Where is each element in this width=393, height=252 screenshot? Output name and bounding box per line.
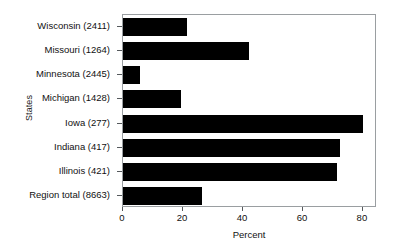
y-axis-tick-labels: Wisconsin (2411)Missouri (1264)Minnesota… (0, 14, 118, 207)
bar (123, 187, 202, 205)
plot-area (122, 14, 376, 207)
x-axis-tick-mark (122, 207, 123, 211)
x-axis-ticks: 020406080 (122, 207, 377, 229)
x-axis-title: Percent (122, 229, 376, 240)
x-axis-tick-label: 80 (347, 212, 377, 223)
y-axis-tick-label: Region total (8663) (29, 189, 110, 201)
y-axis-tick-label: Wisconsin (2411) (37, 20, 110, 32)
y-axis-tick-label: Missouri (1264) (45, 44, 110, 56)
bar (123, 18, 187, 36)
bar (123, 66, 140, 84)
x-axis-tick-label: 0 (107, 212, 137, 223)
x-axis-tick-label: 40 (227, 212, 257, 223)
bar (123, 115, 363, 133)
x-axis-tick-mark (302, 207, 303, 211)
bar (123, 139, 340, 157)
bar (123, 163, 337, 181)
bar (123, 90, 181, 108)
y-axis-tick-label: Illinois (421) (59, 165, 110, 177)
x-axis-tick-mark (242, 207, 243, 211)
x-axis-tick-label: 60 (287, 212, 317, 223)
y-axis-tick-label: Minnesota (2445) (36, 68, 110, 80)
y-axis-tick-label: Michigan (1428) (42, 92, 110, 104)
bar-chart-figure: States Wisconsin (2411)Missouri (1264)Mi… (0, 0, 393, 252)
y-axis-tick-label: Iowa (277) (65, 117, 110, 129)
bar (123, 42, 249, 60)
x-axis-tick-label: 20 (167, 212, 197, 223)
y-axis-tick-label: Indiana (417) (54, 141, 110, 153)
x-axis-tick-mark (182, 207, 183, 211)
x-axis-tick-mark (362, 207, 363, 211)
